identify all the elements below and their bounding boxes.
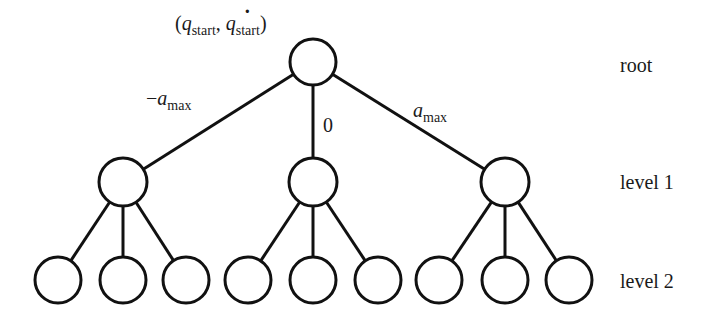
level2-node-3: [225, 257, 271, 303]
qdot-dot-mark: ·: [244, 0, 251, 22]
level2-node-4: [290, 257, 336, 303]
level2-node-8: [546, 257, 592, 303]
tree-edge: [326, 202, 365, 261]
level1-node-1: [289, 158, 337, 206]
root-state-label: (qstart,qstart): [175, 12, 267, 38]
level2-node-6: [416, 257, 462, 303]
tree-edge: [261, 202, 300, 261]
edge-label-neg-amax: −amax: [146, 87, 191, 113]
tree-edge: [333, 74, 485, 169]
level2-node-2: [163, 257, 209, 303]
level2-node-5: [355, 257, 401, 303]
level2-node-0: [35, 257, 81, 303]
level-label-2: level 2: [620, 270, 674, 292]
level1-node-2: [481, 158, 529, 206]
level2-node-1: [100, 257, 146, 303]
root-node: [290, 39, 336, 85]
level2-node-7: [482, 257, 528, 303]
edge-label-amax: amax: [413, 99, 447, 125]
tree-edge: [518, 202, 556, 261]
level1-node-0: [99, 158, 147, 206]
tree-nodes: [35, 39, 592, 303]
level-label-1: level 1: [620, 171, 674, 193]
tree-edge: [136, 202, 174, 260]
tree-edge: [71, 202, 110, 261]
tree-edge: [452, 202, 492, 261]
search-tree-diagram: (qstart,qstart) · −amax 0 amax root leve…: [0, 0, 723, 324]
level-label-root: root: [620, 54, 653, 76]
edge-label-zero: 0: [323, 114, 333, 136]
